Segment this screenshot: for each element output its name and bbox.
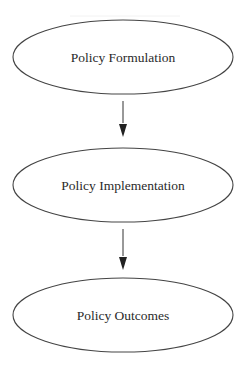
node-label: Policy Outcomes xyxy=(77,308,170,323)
arrow-down-icon xyxy=(119,124,127,137)
edge-formulation-to-implementation xyxy=(119,101,127,137)
node-label: Policy Formulation xyxy=(71,50,176,65)
edge-implementation-to-outcomes xyxy=(119,229,127,270)
node-label: Policy Implementation xyxy=(61,178,185,193)
node-policy-formulation: Policy Formulation xyxy=(13,20,233,94)
node-policy-outcomes: Policy Outcomes xyxy=(13,278,233,352)
arrow-down-icon xyxy=(119,257,127,270)
policy-flow-diagram: Policy Formulation Policy Implementation… xyxy=(0,0,247,367)
node-policy-implementation: Policy Implementation xyxy=(13,148,233,222)
